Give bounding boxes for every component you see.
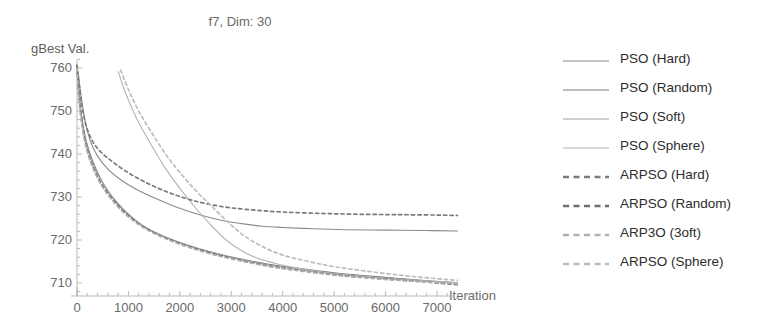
legend-item-label: PSO (Hard) bbox=[620, 51, 691, 66]
legend-item-label: ARP3O (3oft) bbox=[620, 225, 701, 240]
series-line-0 bbox=[77, 66, 458, 231]
legend-item[interactable]: ARPSO (Sphere) bbox=[563, 247, 778, 276]
series-lines bbox=[77, 65, 458, 284]
legend-item-label: PSO (Sphere) bbox=[620, 138, 705, 153]
legend-item-label: ARPSO (Random) bbox=[620, 196, 731, 211]
legend-line-swatch bbox=[563, 227, 609, 239]
chart-legend: PSO (Hard)PSO (Random)PSO (Soft)PSO (Sph… bbox=[563, 44, 778, 276]
legend-line-swatch bbox=[563, 53, 609, 65]
legend-line-swatch bbox=[563, 111, 609, 123]
legend-item[interactable]: PSO (Sphere) bbox=[563, 131, 778, 160]
chart-figure: f7, Dim: 30 gBest Val. Iteration 7107207… bbox=[0, 0, 782, 334]
series-line-4 bbox=[77, 65, 458, 215]
legend-item[interactable]: PSO (Soft) bbox=[563, 102, 778, 131]
legend-item[interactable]: ARPSO (Hard) bbox=[563, 160, 778, 189]
legend-item[interactable]: PSO (Random) bbox=[563, 73, 778, 102]
legend-item-label: PSO (Soft) bbox=[620, 109, 685, 124]
legend-item-label: ARPSO (Sphere) bbox=[620, 254, 724, 269]
legend-item[interactable]: ARP3O (3oft) bbox=[563, 218, 778, 247]
legend-line-swatch bbox=[563, 256, 609, 268]
legend-item[interactable]: PSO (Hard) bbox=[563, 44, 778, 73]
legend-item[interactable]: ARPSO (Random) bbox=[563, 189, 778, 218]
legend-item-label: ARPSO (Hard) bbox=[620, 167, 709, 182]
series-line-3 bbox=[118, 71, 457, 282]
legend-line-swatch bbox=[563, 198, 609, 210]
series-line-2 bbox=[77, 66, 458, 283]
series-line-7 bbox=[121, 70, 458, 280]
legend-line-swatch bbox=[563, 169, 609, 181]
legend-line-swatch bbox=[563, 82, 609, 94]
legend-line-swatch bbox=[563, 140, 609, 152]
series-line-1 bbox=[77, 67, 458, 283]
series-line-5 bbox=[77, 67, 458, 285]
legend-item-label: PSO (Random) bbox=[620, 80, 712, 95]
